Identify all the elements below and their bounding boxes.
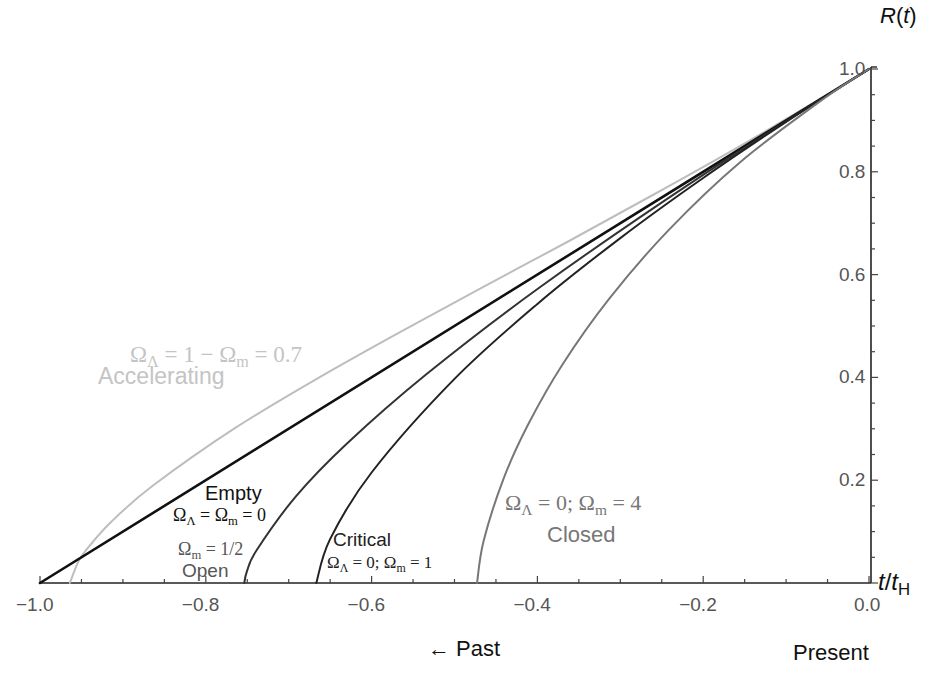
present-label: Present [793, 642, 869, 664]
y-axis-title: R(t) [880, 5, 917, 27]
x-tick-label: −0.4 [513, 595, 551, 614]
x-tick-label: −0.2 [679, 595, 717, 614]
curves [40, 69, 869, 583]
empty-name-label: Empty [205, 483, 262, 503]
open-name-label: Open [182, 561, 228, 580]
y-tick-label: 1.0 [839, 59, 865, 78]
accelerating-name-label: Accelerating [98, 365, 225, 388]
x-tick-label: −1.0 [16, 595, 54, 614]
x-tick-label: −0.8 [182, 595, 220, 614]
x-tick-label: −0.6 [348, 595, 386, 614]
open-params-label: Ωm = 1/2 [178, 540, 243, 561]
y-tick-label: 0.6 [839, 265, 865, 284]
empty-params-label: ΩΛ = Ωm = 0 [173, 506, 266, 527]
past-label: ← Past [428, 638, 500, 660]
closed-params-label: ΩΛ = 0; Ωm = 4 [505, 492, 641, 517]
x-tick-label: 0.0 [854, 595, 880, 614]
y-tick-label: 0.4 [839, 367, 865, 386]
y-tick-label: 0.8 [839, 162, 865, 181]
curve-empty [40, 69, 869, 583]
y-tick-label: 0.2 [839, 470, 865, 489]
x-axis-title: t/tH [878, 570, 910, 599]
closed-name-label: Closed [547, 524, 615, 546]
critical-params-label: ΩΛ = 0; Ωm = 1 [327, 554, 432, 574]
critical-name-label: Critical [333, 530, 391, 549]
